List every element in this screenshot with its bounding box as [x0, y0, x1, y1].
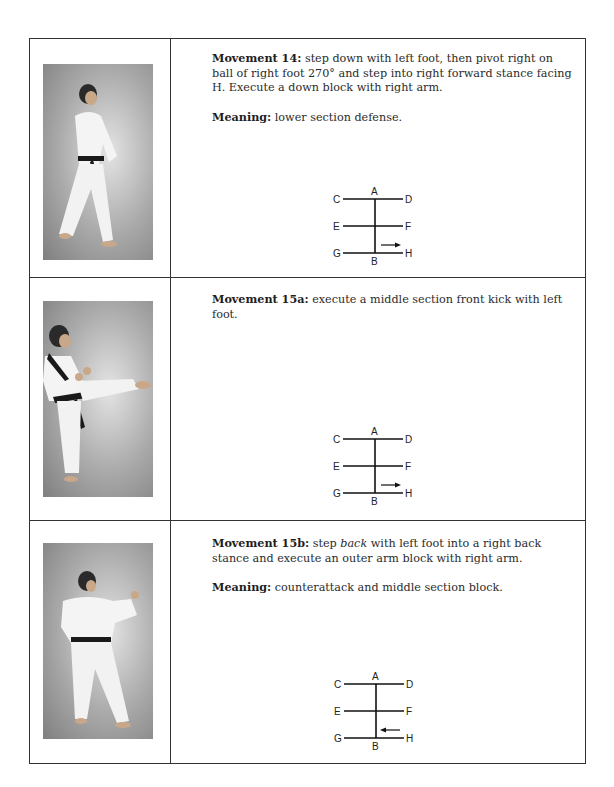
label-d: D — [405, 194, 412, 205]
label-a: A — [371, 426, 378, 437]
column-divider — [170, 278, 171, 520]
floor-pattern-diagram: A C D E F G H B — [332, 668, 422, 750]
label-e: E — [333, 221, 340, 232]
label-b: B — [371, 256, 378, 265]
movement-paragraph: Movement 14: step down with left foot, t… — [212, 51, 572, 96]
label-f: F — [405, 461, 411, 472]
label-c: C — [334, 679, 341, 690]
label-a: A — [371, 186, 378, 197]
label-e: E — [333, 461, 340, 472]
movement-text-before: step — [309, 537, 340, 550]
label-g: G — [333, 248, 341, 259]
meaning-label: Meaning: — [212, 580, 271, 594]
label-a: A — [372, 671, 379, 682]
movement-label: Movement 15b: — [212, 536, 309, 550]
martial-artist-photo-front-kick-icon — [43, 301, 153, 497]
meaning-paragraph: Meaning: counterattack and middle sectio… — [212, 580, 572, 596]
meaning-text: counterattack and middle section block. — [271, 581, 503, 594]
movement-paragraph: Movement 15a: execute a middle section f… — [212, 292, 572, 322]
floor-pattern-diagram: A C D E F G H B — [331, 183, 421, 265]
arrow-left-icon — [380, 728, 400, 733]
label-f: F — [405, 221, 411, 232]
arrow-right-icon — [381, 243, 401, 248]
movement-row-15b: Movement 15b: step back with left foot i… — [30, 521, 585, 763]
label-d: D — [406, 679, 413, 690]
meaning-text: lower section defense. — [271, 111, 402, 124]
meaning-label: Meaning: — [212, 110, 271, 124]
label-b: B — [371, 496, 378, 505]
movement-paragraph: Movement 15b: step back with left foot i… — [212, 536, 572, 566]
label-c: C — [333, 194, 340, 205]
label-e: E — [334, 706, 341, 717]
arrow-right-icon — [381, 483, 401, 488]
label-d: D — [405, 434, 412, 445]
column-divider — [170, 521, 171, 763]
label-h: H — [406, 733, 413, 744]
label-h: H — [405, 248, 412, 259]
label-c: C — [333, 434, 340, 445]
label-g: G — [333, 488, 341, 499]
label-h: H — [405, 488, 412, 499]
column-divider — [170, 39, 171, 277]
floor-pattern-diagram: A C D E F G H B — [331, 423, 421, 505]
meaning-paragraph: Meaning: lower section defense. — [212, 110, 572, 126]
movement-text-italic: back — [340, 537, 367, 550]
label-b: B — [372, 741, 379, 750]
martial-artist-photo-outer-arm-block-icon — [43, 543, 153, 739]
movements-table: Movement 14: step down with left foot, t… — [29, 38, 586, 764]
martial-artist-photo-down-block-icon — [43, 64, 153, 260]
movement-description: Movement 14: step down with left foot, t… — [212, 51, 572, 139]
movement-description: Movement 15b: step back with left foot i… — [212, 536, 572, 610]
movement-description: Movement 15a: execute a middle section f… — [212, 292, 572, 336]
movement-label: Movement 15a: — [212, 292, 309, 306]
movement-label: Movement 14: — [212, 51, 301, 65]
movement-row-14: Movement 14: step down with left foot, t… — [30, 39, 585, 278]
label-f: F — [406, 706, 412, 717]
label-g: G — [334, 733, 342, 744]
movement-row-15a: Movement 15a: execute a middle section f… — [30, 278, 585, 521]
